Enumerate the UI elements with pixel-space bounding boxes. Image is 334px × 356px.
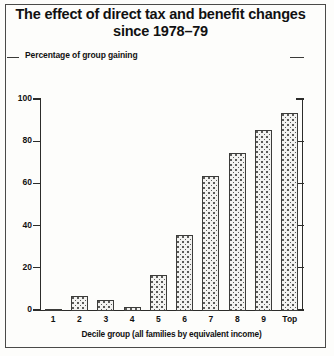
bar-3 [97, 300, 114, 311]
bar-7 [202, 176, 219, 311]
y-tick-label-60: 60 [4, 177, 32, 187]
bar-6 [176, 235, 193, 311]
bar-top [281, 113, 298, 311]
bar-8 [229, 153, 246, 311]
x-axis-caption: Decile group (all families by equivalent… [40, 329, 303, 339]
bar-1 [45, 309, 62, 311]
y-tick-label-40: 40 [4, 220, 32, 230]
bar-4 [124, 307, 141, 311]
y-tick-label-20: 20 [4, 262, 32, 272]
bar-series [40, 99, 303, 311]
y-tick-label-80: 80 [4, 135, 32, 145]
x-tick-label-top: Top [274, 314, 306, 324]
chart-page: The effect of direct tax and benefit cha… [0, 0, 334, 356]
bar-2 [71, 296, 88, 311]
y-tick-label-0: 0 [4, 304, 32, 314]
plot-area: 020406080100 123456789Top Decile group (… [0, 0, 334, 356]
y-tick-label-100: 100 [4, 93, 32, 103]
bar-9 [255, 130, 272, 311]
bar-5 [150, 275, 167, 311]
